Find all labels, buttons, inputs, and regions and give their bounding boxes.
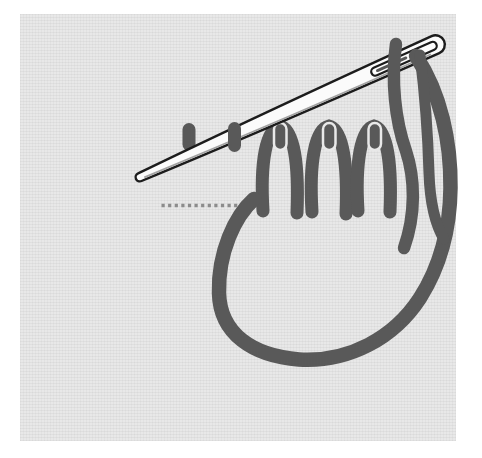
- tie-down-stitch-2: [323, 123, 336, 150]
- tie-down-stitch-1: [274, 123, 287, 150]
- stitch-diagram: [0, 0, 482, 458]
- tie-down-stitch-3: [369, 123, 382, 150]
- straight-stitch-2: [228, 122, 241, 152]
- thread-tail: [394, 44, 413, 248]
- illustration-page: [0, 0, 482, 458]
